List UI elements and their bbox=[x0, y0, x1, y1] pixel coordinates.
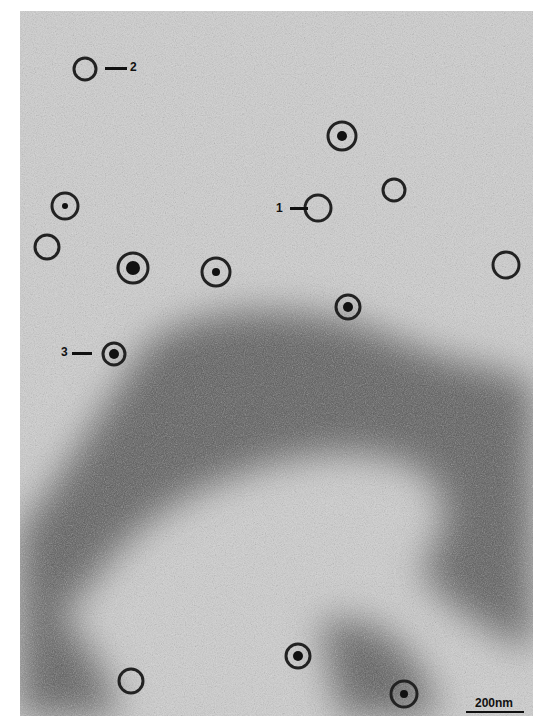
pointer-1 bbox=[290, 207, 308, 210]
label-1: 1 bbox=[276, 202, 283, 214]
label-2: 2 bbox=[130, 61, 137, 73]
label-3: 3 bbox=[61, 346, 68, 358]
micrograph-texture bbox=[20, 11, 533, 716]
micrograph: 1 2 3 200nm bbox=[20, 11, 533, 716]
pointer-3 bbox=[72, 352, 92, 355]
scale-bar bbox=[466, 711, 524, 713]
scale-bar-label: 200nm bbox=[475, 696, 513, 710]
pointer-2 bbox=[105, 67, 127, 70]
